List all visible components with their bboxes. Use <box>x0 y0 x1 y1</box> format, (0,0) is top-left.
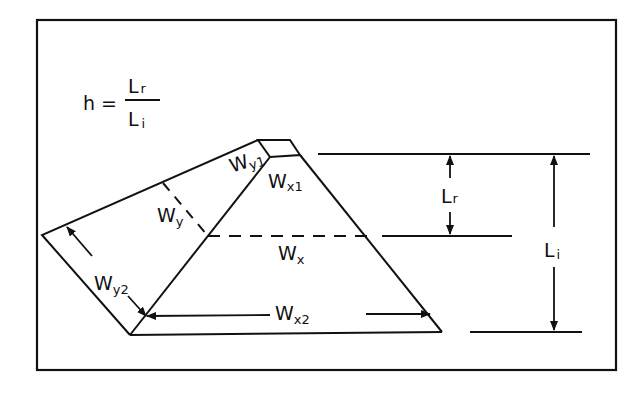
wy2-arrow-up <box>67 227 92 256</box>
top-face <box>258 140 300 157</box>
wy2-arrow-down <box>128 296 146 316</box>
outer-frame <box>37 20 616 370</box>
stream-channel-diagram: h = Lr Li Wy1 Wx1 Wy Wx Wy2 Wx2 Lr Li <box>0 0 644 420</box>
wx2-arrow-left <box>147 315 270 316</box>
left-bank <box>42 140 258 335</box>
label-wx2: Wx2 <box>275 302 310 327</box>
channel-bottom <box>130 332 442 335</box>
formula-lhs: h = <box>83 92 117 114</box>
label-lr: Lr <box>441 185 459 207</box>
formula-numerator: Lr <box>128 75 147 97</box>
label-li: Li <box>544 239 560 262</box>
label-wx1: Wx1 <box>268 170 303 194</box>
diagram-canvas: h = Lr Li Wy1 Wx1 Wy Wx Wy2 Wx2 Lr Li <box>0 0 644 420</box>
formula-denominator: Li <box>128 108 145 131</box>
label-wy2: Wy2 <box>94 272 129 297</box>
inner-diagonal <box>130 157 270 335</box>
label-wx: Wx <box>278 242 305 267</box>
label-wy: Wy <box>157 204 184 229</box>
right-bank <box>300 155 442 332</box>
formula: h = Lr Li <box>83 75 160 131</box>
label-wy1: Wy1 <box>226 145 266 179</box>
